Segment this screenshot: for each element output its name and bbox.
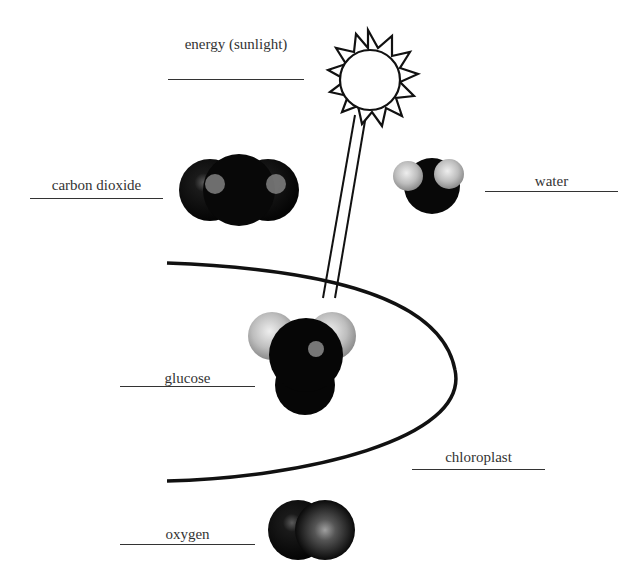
- sunlight-beam: [323, 115, 366, 298]
- oxygen-molecule: [268, 500, 355, 560]
- blank-line-chloroplast: [412, 469, 545, 470]
- label-energy: energy (sunlight): [168, 36, 304, 53]
- water-molecule: [393, 158, 464, 214]
- blank-line-carbon-dioxide: [30, 198, 163, 199]
- label-carbon-dioxide: carbon dioxide: [30, 177, 163, 194]
- label-water: water: [485, 173, 618, 190]
- diagram-graphics: [0, 0, 644, 586]
- blank-line-glucose: [120, 386, 255, 387]
- label-glucose: glucose: [120, 370, 255, 387]
- sun-icon: [328, 30, 418, 126]
- photosynthesis-diagram: energy (sunlight) carbon dioxide water g…: [0, 0, 644, 586]
- blank-line-energy: [168, 79, 304, 80]
- label-chloroplast: chloroplast: [412, 449, 545, 466]
- blank-line-oxygen: [120, 544, 255, 545]
- blank-line-water: [485, 191, 618, 192]
- glucose-molecule: [248, 312, 356, 415]
- label-oxygen: oxygen: [120, 526, 255, 543]
- carbon-dioxide-molecule: [179, 154, 299, 226]
